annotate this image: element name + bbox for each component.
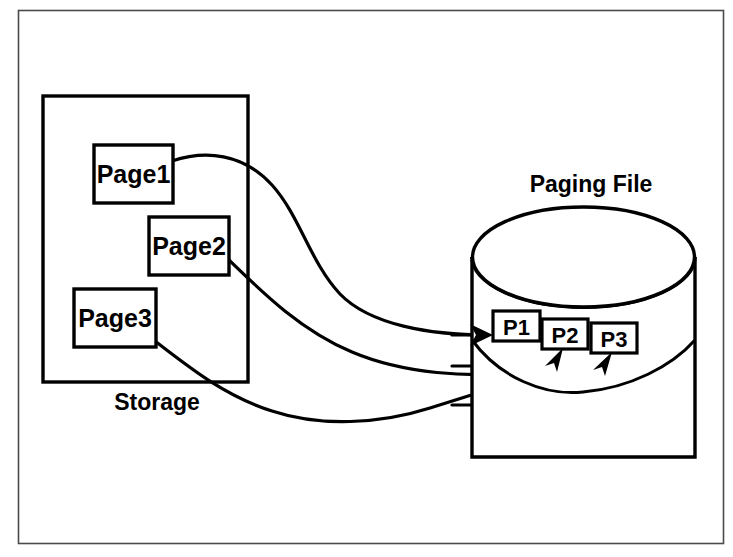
paging-slot-p3[interactable]: P3 [591,323,637,353]
page-box-page1[interactable]: Page1 [94,145,173,203]
paging-slot-p1-label: P1 [503,315,530,340]
paging-file-caption: Paging File [530,171,653,197]
paging-slot-p3-label: P3 [601,327,628,352]
paging-diagram: Page1 Page2 Page3 Storage Paging File P1… [0,0,733,557]
cylinder-top-ellipse [473,207,695,307]
page-box-page2[interactable]: Page2 [149,217,229,275]
page-box-page1-label: Page1 [97,160,171,188]
page-box-page2-label: Page2 [152,232,226,260]
page-box-page3-label: Page3 [78,304,152,332]
paging-slot-p2[interactable]: P2 [542,319,588,349]
page-box-page3[interactable]: Page3 [74,289,156,347]
diagram-canvas: Page1 Page2 Page3 Storage Paging File P1… [0,0,733,557]
paging-slot-p2-label: P2 [552,323,579,348]
storage-caption: Storage [114,389,200,415]
paging-slot-p1[interactable]: P1 [493,311,540,341]
